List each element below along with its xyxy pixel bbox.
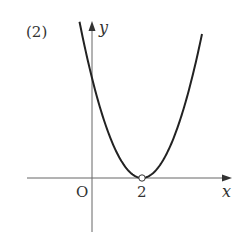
x-tick-label-2: 2 (137, 183, 147, 201)
x-axis-arrow-icon (222, 175, 232, 182)
origin-label: O (76, 183, 88, 201)
y-axis-label: y (98, 18, 109, 37)
vertex-open-circle (139, 175, 145, 181)
graph-figure: (2) y x O 2 (0, 0, 247, 249)
parabola-curve (80, 22, 203, 178)
y-axis-arrow-icon (89, 21, 96, 31)
problem-label: (2) (26, 23, 47, 41)
x-axis-label: x (222, 182, 231, 201)
